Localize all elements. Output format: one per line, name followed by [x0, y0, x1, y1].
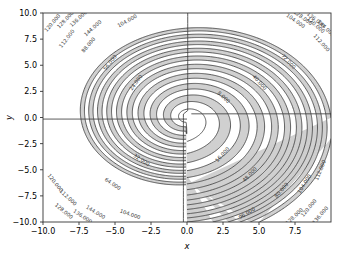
- y-tick-label: −10.0: [12, 218, 37, 227]
- x-tick-label: 0.0: [181, 227, 194, 236]
- x-axis-title: x: [183, 241, 190, 251]
- y-tick-label: 5.0: [24, 61, 37, 70]
- y-axis-title: y: [4, 114, 14, 121]
- x-tick-label: −7.5: [69, 227, 88, 236]
- contour-plot-figure: 8.00016.00024.00032.00040.00048.00056.00…: [0, 0, 343, 266]
- x-tick-label: 7.5: [289, 227, 302, 236]
- x-tick-label: 2.5: [217, 227, 230, 236]
- contour-plot-canvas: 8.00016.00024.00032.00040.00048.00056.00…: [0, 0, 343, 266]
- y-tick-label: 0.0: [24, 114, 37, 123]
- x-tick-label: −10.0: [31, 227, 56, 236]
- x-tick-label: 5.0: [253, 227, 266, 236]
- y-tick-label: −7.5: [18, 192, 37, 201]
- y-tick-label: 2.5: [24, 87, 37, 96]
- x-tick-label: −5.0: [105, 227, 124, 236]
- y-tick-label: 7.5: [24, 35, 37, 44]
- x-tick-label: −2.5: [141, 227, 160, 236]
- y-tick-label: −2.5: [18, 140, 37, 149]
- y-tick-label: 10.0: [19, 9, 37, 18]
- y-tick-label: −5.0: [18, 166, 37, 175]
